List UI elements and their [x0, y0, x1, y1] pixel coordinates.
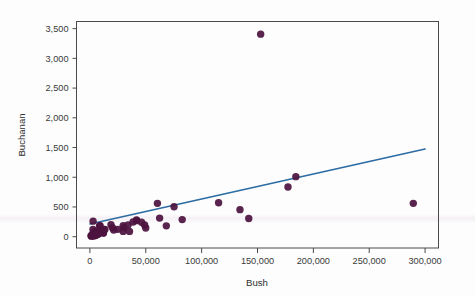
y-tick-label: 3,500 — [46, 24, 69, 34]
scatter-point — [156, 214, 163, 221]
y-tick-label: 500 — [53, 202, 68, 212]
scatter-point — [236, 206, 243, 213]
scatter-point — [101, 226, 108, 233]
x-tick-label: 250,000 — [353, 256, 386, 266]
x-axis-title: Bush — [246, 277, 268, 288]
y-tick-label: 1,000 — [46, 173, 69, 183]
scatter-point — [141, 221, 148, 228]
x-tick-label: 300,000 — [408, 256, 441, 266]
scatter-point — [163, 222, 170, 229]
x-tick-label: 50,000 — [132, 256, 160, 266]
scatter-point — [410, 200, 417, 207]
y-axis-ticks: 05001,0001,5002,0002,5003,0003,500 — [46, 24, 77, 242]
scatter-plot: 05001,0001,5002,0002,5003,0003,500 050,0… — [0, 0, 475, 296]
regression-trendline — [90, 149, 425, 224]
scatter-point — [215, 199, 222, 206]
scatter-point — [170, 203, 177, 210]
x-tick-label: 100,000 — [185, 256, 218, 266]
scatter-point — [284, 183, 291, 190]
x-axis-ticks: 050,000100,000150,000200,000250,000300,0… — [87, 248, 441, 266]
scatter-point — [107, 221, 114, 228]
scatter-point — [92, 231, 99, 238]
y-tick-label: 2,000 — [46, 113, 69, 123]
x-tick-label: 0 — [87, 256, 92, 266]
scatter-points — [87, 30, 417, 239]
chart-page: 05001,0001,5002,0002,5003,0003,500 050,0… — [0, 0, 475, 296]
y-tick-label: 3,000 — [46, 54, 69, 64]
x-tick-label: 200,000 — [297, 256, 330, 266]
scatter-point — [245, 215, 252, 222]
y-axis-title: Buchanan — [16, 113, 27, 156]
scatter-point — [124, 221, 131, 228]
y-tick-label: 2,500 — [46, 83, 69, 93]
y-tick-label: 1,500 — [46, 143, 69, 153]
scatter-point — [257, 30, 264, 37]
scatter-point — [154, 200, 161, 207]
y-tick-label: 0 — [63, 232, 68, 242]
scatter-point — [292, 173, 299, 180]
scatter-point — [89, 217, 96, 224]
scatter-point — [178, 216, 185, 223]
x-tick-label: 150,000 — [241, 256, 274, 266]
